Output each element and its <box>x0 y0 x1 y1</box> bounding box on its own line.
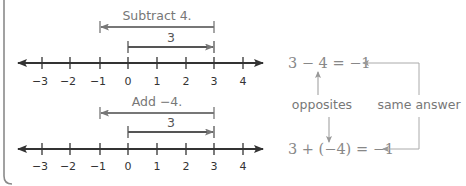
tick-label: −3 <box>32 75 48 88</box>
number-line-diagram: Subtract 4. 3 −3 −2 −1 0 1 2 <box>0 0 466 186</box>
tick-label: 3 <box>211 75 218 88</box>
number-line-top: Subtract 4. 3 −3 −2 −1 0 1 2 <box>18 8 263 88</box>
opposites-label: opposites <box>292 97 352 112</box>
tick-label: 1 <box>154 160 161 173</box>
tick-label: 4 <box>240 160 247 173</box>
tick-label: −1 <box>90 160 106 173</box>
same-answer-label: same answer <box>377 97 461 112</box>
tick-label: 2 <box>183 75 190 88</box>
frame-border <box>4 0 12 184</box>
number-line-bottom: Add −4. 3 −3 −2 −1 0 1 2 3 4 <box>18 94 263 173</box>
tick-label: −2 <box>60 160 76 173</box>
start-label-top: 3 <box>167 30 175 45</box>
tick-label: 0 <box>125 75 132 88</box>
tick-label: 2 <box>183 160 190 173</box>
tick-label: 0 <box>125 160 132 173</box>
tick-label: −3 <box>32 160 48 173</box>
start-label-bottom: 3 <box>167 115 175 130</box>
tick-label: 4 <box>240 75 247 88</box>
tick-label: 1 <box>154 75 161 88</box>
operation-label-top: Subtract 4. <box>122 8 191 23</box>
equation-subtraction: 3 − 4 = −1 <box>288 55 371 71</box>
equation-addition: 3 + (−4) = −1 <box>288 141 394 157</box>
operation-label-bottom: Add −4. <box>132 94 183 109</box>
tick-label: −1 <box>90 75 106 88</box>
same-answer-top-connector <box>363 63 419 95</box>
tick-label: −2 <box>60 75 76 88</box>
tick-label: 3 <box>211 160 218 173</box>
